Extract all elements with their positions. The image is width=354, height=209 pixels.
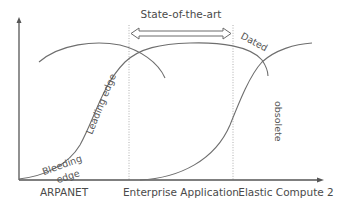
y-axis [17, 17, 22, 180]
curve-current-generation [19, 43, 268, 179]
curve-previous-generation [39, 43, 165, 78]
y-axis-arrow-icon [17, 17, 22, 23]
x-label-arpanet: ARPANET [40, 186, 89, 198]
x-label-elastic-compute-2: Elastic Compute 2 [238, 186, 334, 198]
obsolete-label: obsolete [273, 101, 284, 142]
state-of-the-art-double-arrow-icon [131, 28, 231, 39]
leading-edge-label: Leading edge [84, 72, 118, 136]
state-of-the-art-label: State-of-the-art [140, 8, 221, 20]
x-label-enterprise-application: Enterprise Application [123, 186, 239, 198]
curve-next-generation [140, 43, 312, 180]
x-axis-arrow-icon [317, 178, 324, 183]
dated-label: Dated [239, 30, 270, 53]
s-curve-diagram: State-of-the-art Bleeding edge Leading e… [0, 0, 354, 209]
